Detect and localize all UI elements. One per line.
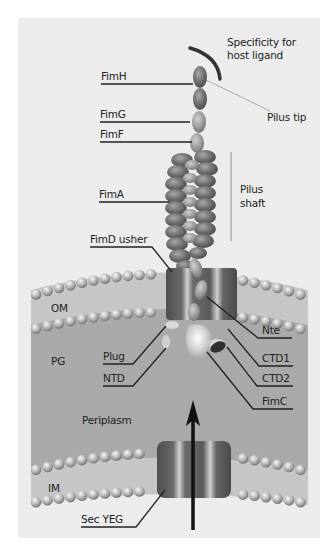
label-pilus-tip: Pilus tip [267,111,306,123]
label-ntd: NTD [103,372,125,384]
label-pilus-shaft: Pilus shaft [240,182,265,210]
label-om: OM [51,302,68,314]
label-plug: Plug [103,350,125,362]
label-periplasm: Periplasm [82,414,132,426]
membrane-beads [0,0,335,558]
label-fimC: FimC [262,395,287,407]
label-fimA: FimA [99,188,124,200]
label-specificity-line1: Specificity for [227,36,296,49]
label-secyeg: Sec YEG [81,513,123,525]
label-pilus-shaft-line1: Pilus [240,182,265,196]
label-pilus-shaft-line2: shaft [240,196,265,210]
label-fimD: FimD usher [90,233,147,245]
label-nte: Nte [262,324,280,336]
label-im: IM [48,482,60,494]
label-fimG: FimG [100,108,126,120]
label-pg: PG [51,355,65,367]
label-ctd2: CTD2 [262,372,290,384]
label-fimF: FimF [100,128,124,140]
label-ctd1: CTD1 [262,352,290,364]
label-specificity: Specificity for host ligand [227,36,296,62]
label-fimH: FimH [101,70,127,82]
label-specificity-line2: host ligand [227,49,296,62]
